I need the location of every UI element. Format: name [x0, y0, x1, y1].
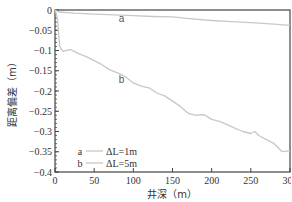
y-tick-label: −0.25: [29, 106, 52, 117]
x-tick-label: 300: [283, 175, 292, 186]
y-tick-label: −0.35: [29, 146, 52, 157]
curve-annotations: ab: [119, 13, 125, 85]
legend-key-b: b: [78, 158, 83, 169]
x-axis: 050100150200250300: [53, 168, 292, 186]
x-tick-label: 0: [53, 175, 58, 186]
legend-label-a: ΔL=1m: [106, 146, 137, 157]
curve-label-b: b: [119, 74, 125, 85]
x-axis-title: 井深（m）: [147, 188, 197, 200]
y-tick-label: −0.3: [34, 126, 52, 137]
line-chart: 0−0.05−0.1−0.15−0.2−0.25−0.3−0.35−0.4 05…: [0, 0, 291, 202]
curve-a: [55, 10, 290, 25]
legend-key-a: a: [78, 146, 83, 157]
x-tick-label: 150: [165, 175, 180, 186]
x-tick-label: 250: [243, 175, 258, 186]
y-tick-label: −0.05: [29, 25, 52, 36]
y-tick-label: −0.15: [29, 65, 52, 76]
y-tick-label: −0.1: [34, 45, 52, 56]
plot-frame: [55, 10, 290, 172]
curves: [55, 10, 290, 152]
y-tick-label: −0.4: [34, 167, 52, 178]
plot-area: [55, 10, 290, 172]
curve-label-a: a: [119, 13, 125, 24]
y-axis-title: 距离偏差（m）: [6, 57, 18, 127]
x-tick-label: 50: [89, 175, 99, 186]
x-tick-label: 200: [204, 175, 219, 186]
x-tick-label: 100: [126, 175, 141, 186]
y-tick-label: −0.2: [34, 86, 52, 97]
legend: aΔL=1mbΔL=5m: [78, 146, 138, 169]
legend-label-b: ΔL=5m: [106, 158, 137, 169]
curve-b: [55, 10, 290, 152]
y-tick-label: 0: [47, 5, 52, 16]
